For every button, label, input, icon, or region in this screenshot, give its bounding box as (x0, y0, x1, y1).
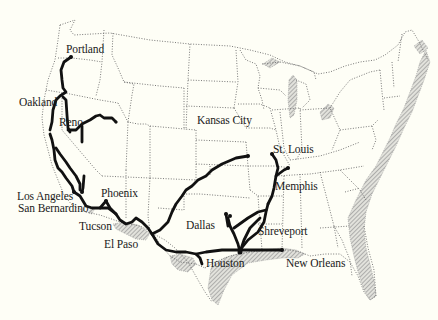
city-label-new-orleans: New Orleans (286, 258, 345, 270)
shaded-coastal-areas (88, 40, 430, 305)
city-label-shreveport: Shreveport (258, 226, 307, 238)
city-label-memphis: Memphis (275, 181, 318, 193)
rail-routes (50, 57, 288, 264)
city-label-phoenix: Phoenix (101, 188, 138, 200)
city-label-el-paso: El Paso (104, 239, 138, 251)
city-label-los-angeles: Los Angeles (17, 191, 73, 203)
city-label-san-bernardino: San Bernardino (18, 203, 88, 215)
city-label-portland: Portland (66, 44, 104, 56)
city-label-reno: Reno (59, 117, 83, 129)
city-label-tucson: Tucson (79, 221, 112, 233)
city-label-oakland: Oakland (19, 97, 57, 109)
city-label-dallas: Dallas (186, 220, 215, 232)
city-label-st-louis: St. Louis (273, 144, 314, 156)
city-label-kansas-city: Kansas City (197, 115, 252, 127)
city-label-houston: Houston (206, 258, 244, 270)
